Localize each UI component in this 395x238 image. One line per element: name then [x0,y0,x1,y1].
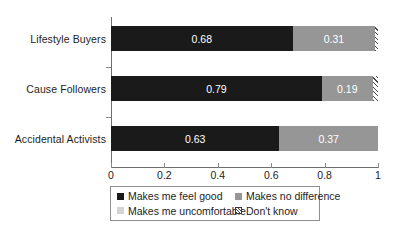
legend-grid: Makes me feel goodMakes no differenceMak… [117,191,314,216]
bar-row: 0.630.37 [111,126,378,151]
x-axis-tick [271,163,272,168]
bar-value-label: 0.37 [279,133,378,144]
legend-item-dont_know[interactable]: Don't know [235,206,340,217]
x-axis-tick-label: 1 [375,169,381,181]
category-label: Cause Followers [0,83,106,95]
bar-segment-no_difference: 0.31 [293,26,376,51]
legend-label: Don't know [246,206,298,217]
x-axis-tick-label: 0 [108,169,114,181]
y-axis-labels: Lifestyle BuyersCause FollowersAccidenta… [0,0,109,238]
bar-segment-no_difference: 0.19 [322,76,373,101]
legend-swatch-icon [117,193,124,200]
x-axis-tick-label: 0.2 [157,169,172,181]
category-label: Accidental Activists [0,133,106,145]
bar-segment-feel_good: 0.68 [111,26,293,51]
x-axis-tick-label: 0.6 [264,169,279,181]
bar-value-label: 0.31 [293,33,376,44]
legend-swatch-icon [235,193,242,200]
x-axis-tick-label: 0.8 [317,169,332,181]
bar-segment-feel_good: 0.63 [111,126,279,151]
bar-value-label: 0.63 [111,133,279,144]
bar-value-label: 0.68 [111,33,293,44]
bar-value-label: 0.79 [111,83,322,94]
y-axis-tick [106,67,111,68]
x-axis-tick [325,163,326,168]
legend-label: Makes no difference [246,191,340,202]
x-axis-line [111,167,379,168]
x-axis-tick [111,163,112,168]
bar-segment-dont_know [373,76,378,101]
stacked-bar-chart: Lifestyle BuyersCause FollowersAccidenta… [0,0,395,238]
legend-item-uncomfortable[interactable]: Makes me uncomfortable [117,206,233,217]
legend-label: Makes me feel good [128,191,223,202]
legend-swatch-icon [117,207,124,214]
y-axis-tick [106,117,111,118]
category-label: Lifestyle Buyers [0,33,106,45]
legend-label: Makes me uncomfortable [128,206,246,217]
x-axis-tick [164,163,165,168]
bar-segment-feel_good: 0.79 [111,76,322,101]
x-axis-tick [218,163,219,168]
bar-segment-dont_know [375,26,378,51]
chart-legend: Makes me feel goodMakes no differenceMak… [110,186,320,221]
legend-item-feel_good[interactable]: Makes me feel good [117,191,233,202]
bar-row: 0.680.31 [111,26,378,51]
legend-item-no_difference[interactable]: Makes no difference [235,191,340,202]
bar-value-label: 0.19 [322,83,373,94]
x-axis-tick-label: 0.4 [210,169,225,181]
legend-swatch-icon [235,207,242,214]
bar-row: 0.790.19 [111,76,378,101]
bar-segment-no_difference: 0.37 [279,126,378,151]
x-axis-tick [378,163,379,168]
